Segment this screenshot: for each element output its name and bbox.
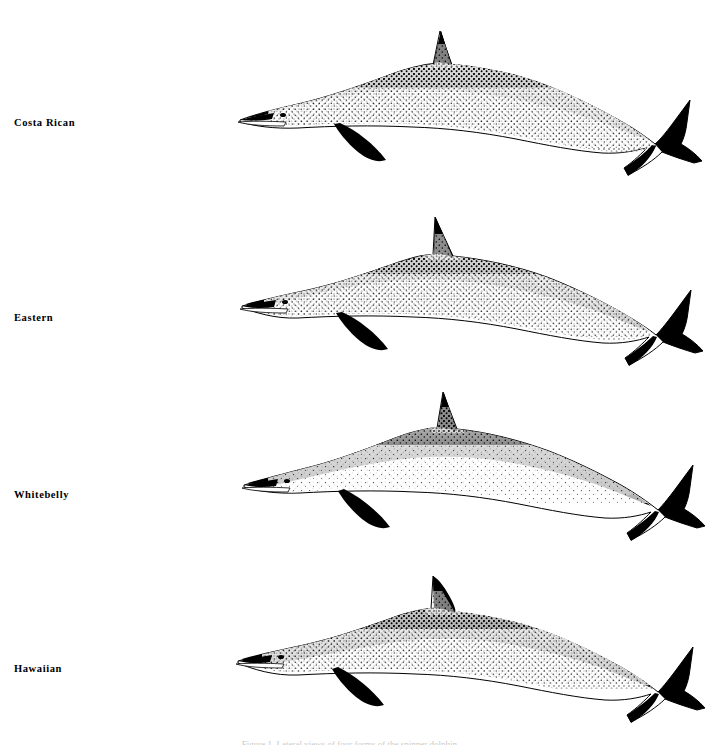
specimen-label-hawaiian: Hawaiian	[14, 663, 62, 674]
lower-jaw	[240, 308, 288, 313]
pectoral-flipper	[336, 312, 388, 350]
eye	[282, 300, 288, 304]
specimen-label-whitebelly: Whitebelly	[14, 489, 69, 500]
lower-jaw	[242, 487, 290, 492]
dolphin-illustration-eastern	[228, 208, 706, 368]
plate-caption: Figure 1. Lateral views of four forms of…	[0, 739, 701, 745]
pectoral-flipper	[334, 123, 386, 161]
dolphin-illustration-whitebelly	[228, 385, 706, 543]
specimen-label-eastern: Eastern	[14, 312, 53, 323]
eye	[284, 479, 290, 483]
flank-stippling	[264, 250, 668, 342]
specimen-label-costa-rican: Costa Rican	[14, 117, 75, 128]
dolphin-illustration-hawaiian	[228, 565, 706, 730]
eye	[280, 113, 286, 117]
lower-jaw	[236, 663, 284, 668]
lower-jaw	[238, 121, 286, 126]
eye	[278, 655, 284, 659]
flank-stippling	[268, 62, 668, 154]
pectoral-flipper	[338, 489, 390, 528]
dolphin-illustration-costa-rican	[228, 18, 706, 183]
